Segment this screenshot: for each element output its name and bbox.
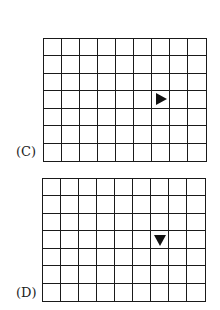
grid-cell bbox=[43, 266, 61, 283]
grid-cell bbox=[134, 109, 152, 126]
grid-cell bbox=[43, 249, 61, 266]
grid-cell bbox=[169, 196, 187, 213]
grid-cell bbox=[62, 144, 80, 161]
grid-cell bbox=[116, 74, 134, 91]
grid-cell bbox=[170, 144, 188, 161]
grid-cell bbox=[187, 266, 205, 283]
grid-cell bbox=[151, 214, 169, 231]
grid-cell bbox=[115, 196, 133, 213]
grid-cell bbox=[44, 126, 62, 143]
grid-cell bbox=[133, 196, 151, 213]
grid-cell bbox=[152, 39, 170, 56]
grid-cell bbox=[116, 39, 134, 56]
grid-cell bbox=[98, 91, 116, 108]
grid-cell bbox=[133, 266, 151, 283]
grid-cell bbox=[187, 196, 205, 213]
grid-cell bbox=[43, 196, 61, 213]
grid-cell bbox=[97, 231, 115, 248]
grid-cell bbox=[44, 109, 62, 126]
grid-cell bbox=[116, 91, 134, 108]
grid-cell bbox=[188, 126, 206, 143]
grid-cell bbox=[170, 39, 188, 56]
grid-cell bbox=[133, 179, 151, 196]
grid-cell bbox=[79, 196, 97, 213]
grid-cell bbox=[115, 231, 133, 248]
grid-cell bbox=[97, 284, 115, 301]
grid-cell bbox=[79, 284, 97, 301]
grid-cell bbox=[188, 39, 206, 56]
grid-cell bbox=[170, 91, 188, 108]
grid-cell bbox=[169, 214, 187, 231]
grid-cell bbox=[133, 231, 151, 248]
grid-cell bbox=[187, 214, 205, 231]
panel-label-d: (D) bbox=[16, 285, 37, 300]
grid-cell bbox=[187, 231, 205, 248]
grid-cell bbox=[134, 39, 152, 56]
grid-cell bbox=[44, 74, 62, 91]
grid-cell bbox=[169, 179, 187, 196]
grid-cell bbox=[170, 56, 188, 73]
grid-cell bbox=[134, 74, 152, 91]
grid-cell bbox=[61, 231, 79, 248]
grid-c bbox=[43, 38, 207, 162]
grid-cell bbox=[62, 126, 80, 143]
grid-cell bbox=[151, 249, 169, 266]
grid-cell bbox=[115, 284, 133, 301]
panel-label-c: (C) bbox=[16, 144, 36, 159]
grid-cell bbox=[133, 249, 151, 266]
grid-cell bbox=[43, 179, 61, 196]
grid-cell bbox=[43, 284, 61, 301]
grid-cell bbox=[152, 109, 170, 126]
grid-cell bbox=[98, 39, 116, 56]
grid-cell bbox=[134, 56, 152, 73]
grid-cell bbox=[115, 214, 133, 231]
grid-cell bbox=[44, 144, 62, 161]
grid-cell bbox=[98, 144, 116, 161]
grid-cell bbox=[62, 74, 80, 91]
grid-cell bbox=[116, 144, 134, 161]
grid-cell bbox=[43, 231, 61, 248]
grid-cell bbox=[188, 56, 206, 73]
grid-cell bbox=[152, 144, 170, 161]
grid-cell bbox=[151, 179, 169, 196]
grid-cell bbox=[115, 249, 133, 266]
grid-cell bbox=[79, 249, 97, 266]
grid-cell bbox=[80, 39, 98, 56]
grid-cell bbox=[188, 109, 206, 126]
grid-cell bbox=[79, 179, 97, 196]
grid-cell bbox=[134, 126, 152, 143]
grid-cell bbox=[80, 126, 98, 143]
grid-cell bbox=[80, 144, 98, 161]
grid-cell bbox=[80, 56, 98, 73]
grid-cell bbox=[61, 266, 79, 283]
grid-cell bbox=[61, 214, 79, 231]
grid-cell bbox=[151, 231, 169, 248]
grid-cell bbox=[188, 144, 206, 161]
grid-cell bbox=[61, 196, 79, 213]
grid-cell bbox=[152, 126, 170, 143]
grid-cell bbox=[62, 91, 80, 108]
grid-cell bbox=[80, 74, 98, 91]
grid-cell bbox=[151, 284, 169, 301]
grid-cell bbox=[97, 196, 115, 213]
grid-cell bbox=[170, 126, 188, 143]
grid-cell bbox=[61, 179, 79, 196]
grid-cell bbox=[62, 39, 80, 56]
down-triangle-icon bbox=[154, 235, 166, 246]
grid-cell bbox=[44, 39, 62, 56]
grid-cell bbox=[98, 56, 116, 73]
grid-cell bbox=[97, 179, 115, 196]
grid-cell bbox=[98, 109, 116, 126]
grid-cell bbox=[134, 144, 152, 161]
grid-cell bbox=[116, 109, 134, 126]
grid-cell bbox=[44, 56, 62, 73]
grid-cell bbox=[80, 109, 98, 126]
grid-cell bbox=[151, 196, 169, 213]
grid-cell bbox=[152, 56, 170, 73]
grid-cell bbox=[80, 91, 98, 108]
grid-cell bbox=[151, 266, 169, 283]
grid-cell bbox=[152, 91, 170, 108]
grid-cell bbox=[152, 74, 170, 91]
grid-cell bbox=[169, 249, 187, 266]
grid-cell bbox=[62, 109, 80, 126]
